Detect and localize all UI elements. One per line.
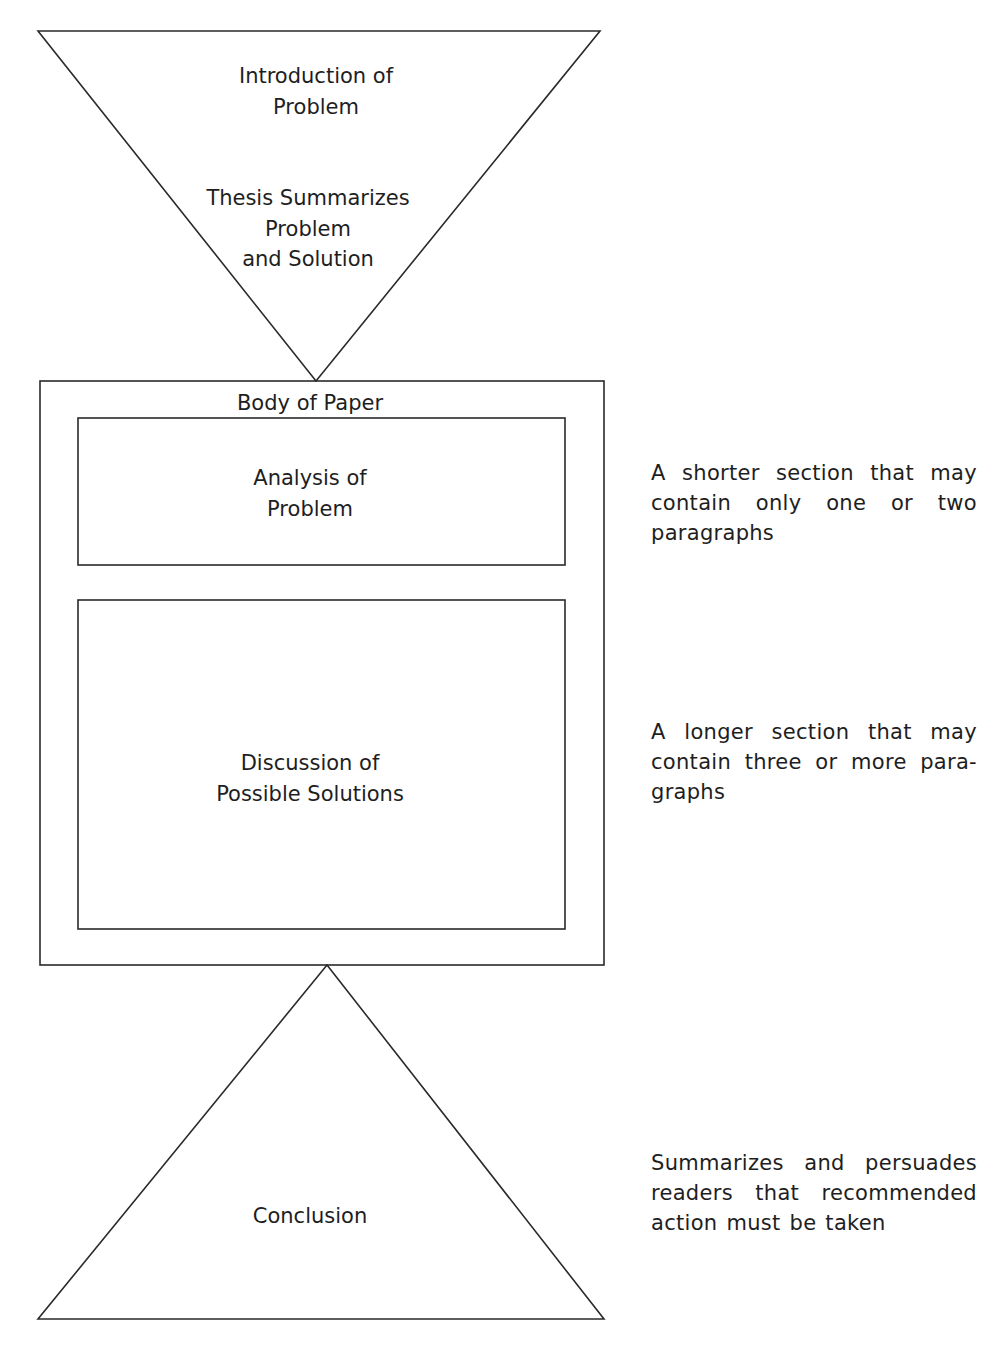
discussion-label: Discussion of Possible Solutions [160, 748, 460, 809]
discussion-note: A longer section that may contain three … [651, 717, 977, 807]
conclusion-note: Summarizes and persuades readers that re… [651, 1148, 977, 1238]
thesis-label: Thesis Summarizes Problem and Solution [158, 183, 458, 275]
conclusion-text: Conclusion [160, 1201, 460, 1232]
analysis-note-line-2: contain only one or two [651, 488, 977, 518]
conclusion-triangle [38, 965, 604, 1319]
discussion-line-2: Possible Solutions [160, 779, 460, 810]
discussion-line-1: Discussion of [160, 748, 460, 779]
conclusion-note-line-2: readers that recommended [651, 1178, 977, 1208]
conclusion-label: Conclusion [160, 1201, 460, 1232]
diagram-shapes [0, 0, 1004, 1346]
conclusion-note-line-3: action must be taken [651, 1208, 977, 1238]
analysis-label: Analysis of Problem [160, 463, 460, 524]
analysis-note-line-3: paragraphs [651, 518, 977, 548]
introduction-line-1: Introduction of [166, 61, 466, 92]
body-of-paper-text: Body of Paper [160, 388, 460, 419]
analysis-note: A shorter section that may contain only … [651, 458, 977, 548]
conclusion-note-line-1: Summarizes and persuades [651, 1148, 977, 1178]
introduction-label: Introduction of Problem [166, 61, 466, 122]
discussion-note-line-3: graphs [651, 777, 977, 807]
thesis-line-1: Thesis Summarizes [158, 183, 458, 214]
thesis-line-2: Problem [158, 214, 458, 245]
paper-structure-diagram: Introduction of Problem Thesis Summarize… [0, 0, 1004, 1346]
thesis-line-3: and Solution [158, 244, 458, 275]
introduction-line-2: Problem [166, 92, 466, 123]
discussion-note-line-2: contain three or more para- [651, 747, 977, 777]
body-of-paper-label: Body of Paper [160, 388, 460, 419]
analysis-line-2: Problem [160, 494, 460, 525]
analysis-line-1: Analysis of [160, 463, 460, 494]
analysis-note-line-1: A shorter section that may [651, 458, 977, 488]
discussion-note-line-1: A longer section that may [651, 717, 977, 747]
